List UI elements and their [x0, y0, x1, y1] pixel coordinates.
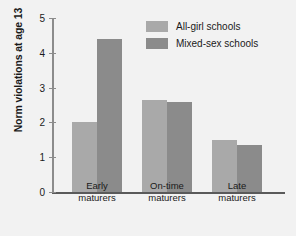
legend-swatch [146, 38, 168, 49]
bar [167, 102, 192, 192]
x-category-label-line: Late [192, 180, 282, 192]
x-category-label: Latematurers [192, 180, 282, 203]
legend-swatch [146, 21, 168, 32]
y-tick [49, 18, 56, 19]
y-tick-label: 4 [39, 47, 45, 58]
legend: All-girl schoolsMixed-sex schools [146, 19, 258, 53]
y-tick [49, 53, 56, 54]
bar-chart: Norm violations at age 13 012345 Earlyma… [0, 0, 296, 236]
y-tick-label: 5 [39, 13, 45, 24]
bar [142, 100, 167, 192]
y-tick [49, 88, 56, 89]
y-tick [49, 122, 56, 123]
legend-item[interactable]: Mixed-sex schools [146, 36, 258, 50]
y-tick-label: 2 [39, 117, 45, 128]
x-category-label-line: maturers [192, 192, 282, 204]
bar-group [72, 39, 122, 192]
y-tick [49, 157, 56, 158]
legend-label: All-girl schools [176, 21, 240, 32]
bar-group [142, 100, 192, 192]
y-axis-line [52, 18, 54, 194]
y-tick-label: 0 [39, 187, 45, 198]
legend-label: Mixed-sex schools [176, 38, 258, 49]
y-tick-label: 3 [39, 82, 45, 93]
y-tick-label: 1 [39, 152, 45, 163]
legend-item[interactable]: All-girl schools [146, 19, 258, 33]
bar [97, 39, 122, 192]
y-axis-title: Norm violations at age 13 [12, 0, 24, 150]
